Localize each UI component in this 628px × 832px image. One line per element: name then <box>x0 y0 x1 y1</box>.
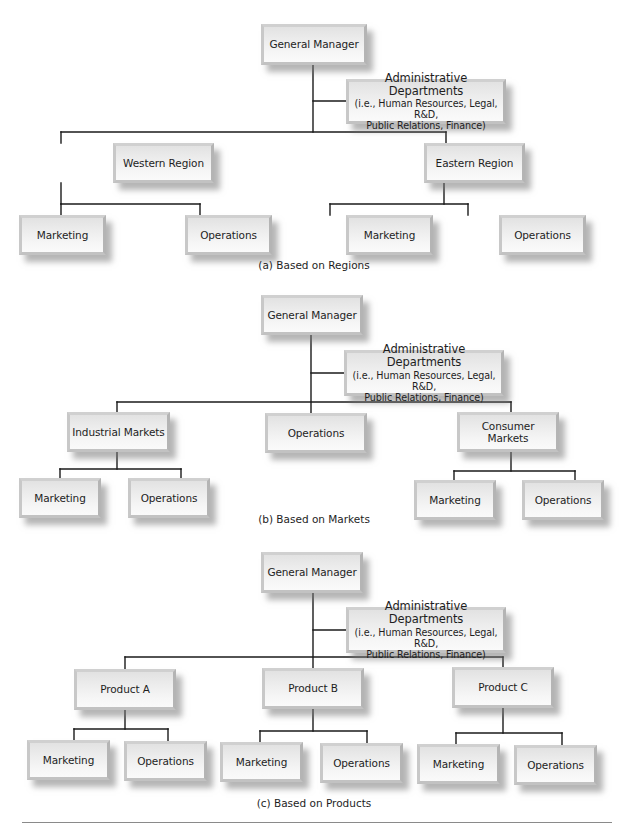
caption-products: (c) Based on Products <box>0 797 628 809</box>
node-western-operations: Operations <box>185 215 272 255</box>
node-administrative-departments: Administrative Departments (i.e., Human … <box>344 350 504 396</box>
node-label: Marketing <box>429 494 480 506</box>
node-administrative-departments: Administrative Departments (i.e., Human … <box>346 79 506 124</box>
node-label: Product C <box>478 681 528 693</box>
node-product-c: Product C <box>452 667 554 708</box>
node-operations: Operations <box>265 413 367 453</box>
node-label: Marketing <box>43 754 94 766</box>
node-label: Marketing <box>433 758 484 770</box>
node-label: Industrial Markets <box>72 426 164 438</box>
node-product-b-operations: Operations <box>320 743 403 783</box>
node-western-marketing: Marketing <box>19 215 106 255</box>
node-label: General Manager <box>269 38 358 50</box>
node-label: Marketing <box>37 229 88 241</box>
node-product-c-operations: Operations <box>514 745 597 785</box>
node-industrial-marketing: Marketing <box>19 478 101 518</box>
node-label: Eastern Region <box>436 157 514 169</box>
node-industrial-operations: Operations <box>128 478 210 518</box>
node-eastern-marketing: Marketing <box>346 215 433 255</box>
node-label: Consumer Markets <box>460 420 556 444</box>
node-sublabel: (i.e., Human Resources, Legal, R&D, <box>347 370 501 392</box>
node-label: Operations <box>137 755 194 767</box>
node-label: Operations <box>333 757 390 769</box>
node-sublabel: (i.e., Human Resources, Legal, R&D, <box>349 98 503 120</box>
node-sublabel: Public Relations, Finance) <box>366 649 485 660</box>
node-label: Administrative Departments <box>347 343 501 369</box>
node-administrative-departments: Administrative Departments (i.e., Human … <box>346 607 506 653</box>
node-eastern-operations: Operations <box>499 215 586 255</box>
node-general-manager: General Manager <box>261 552 363 593</box>
bottom-divider <box>22 822 612 823</box>
node-consumer-markets: Consumer Markets <box>457 412 559 452</box>
node-eastern-region: Eastern Region <box>424 143 525 183</box>
node-label: Administrative Departments <box>349 600 503 626</box>
node-label: General Manager <box>267 309 356 321</box>
node-sublabel: Public Relations, Finance) <box>366 120 485 131</box>
node-product-b: Product B <box>262 668 364 709</box>
org-structure-diagram: General Manager Administrative Departmen… <box>0 0 628 832</box>
node-label: Marketing <box>364 229 415 241</box>
node-label: Operations <box>200 229 257 241</box>
node-sublabel: Public Relations, Finance) <box>364 392 483 403</box>
caption-markets: (b) Based on Markets <box>0 513 628 525</box>
node-general-manager: General Manager <box>261 24 367 65</box>
node-sublabel: (i.e., Human Resources, Legal, R&D, <box>349 627 503 649</box>
node-product-b-marketing: Marketing <box>220 742 303 782</box>
node-product-a-marketing: Marketing <box>27 740 110 780</box>
node-product-a-operations: Operations <box>124 741 207 781</box>
node-label: Administrative Departments <box>349 72 503 98</box>
node-western-region: Western Region <box>113 143 214 183</box>
node-label: Operations <box>141 492 198 504</box>
node-label: Marketing <box>236 756 287 768</box>
node-label: Western Region <box>123 157 204 169</box>
node-label: Operations <box>514 229 571 241</box>
node-label: Operations <box>535 494 592 506</box>
caption-regions: (a) Based on Regions <box>0 259 628 271</box>
node-label: Product B <box>288 682 338 694</box>
node-label: Operations <box>527 759 584 771</box>
node-label: General Manager <box>267 566 356 578</box>
node-label: Marketing <box>34 492 85 504</box>
node-product-c-marketing: Marketing <box>417 744 500 784</box>
node-industrial-markets: Industrial Markets <box>67 412 170 452</box>
node-label: Product A <box>100 683 150 695</box>
node-general-manager: General Manager <box>261 295 363 335</box>
node-product-a: Product A <box>74 669 176 710</box>
node-label: Operations <box>288 427 345 439</box>
